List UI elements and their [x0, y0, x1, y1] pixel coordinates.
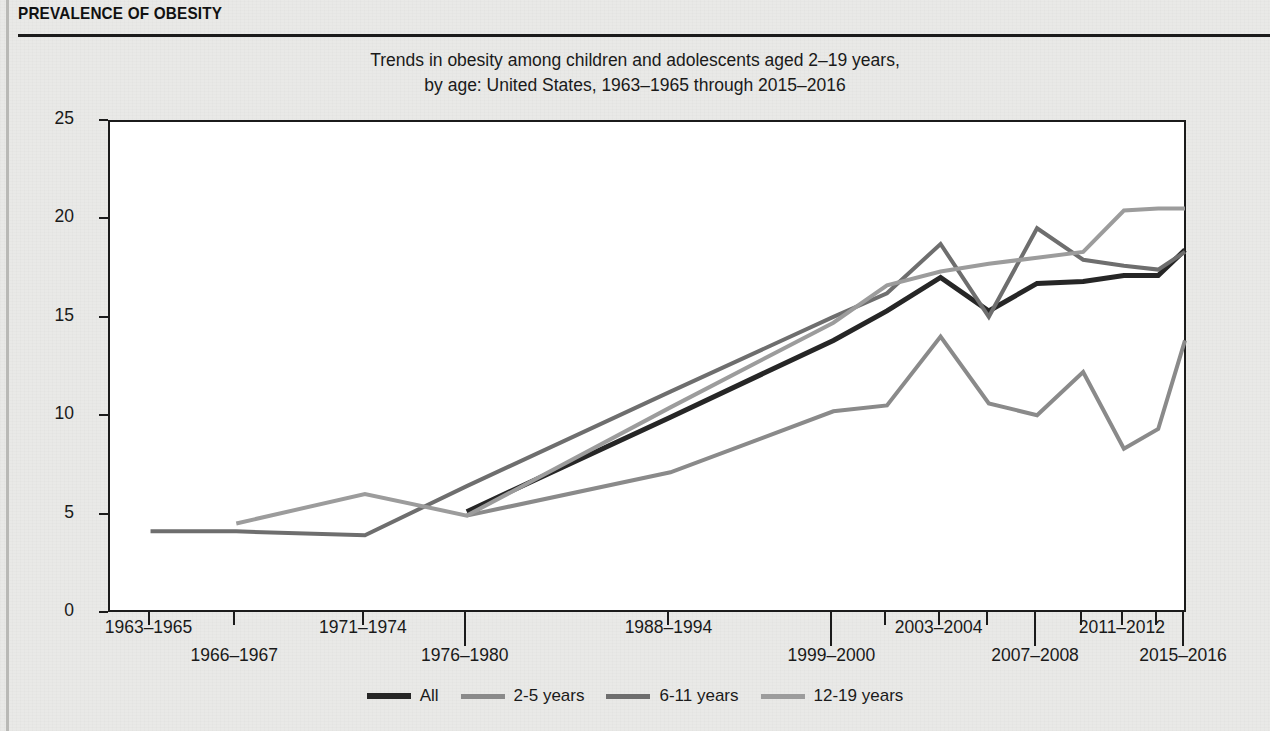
- y-tick-mark: [99, 513, 108, 515]
- series-line: [467, 250, 1185, 512]
- y-tick-label: 5: [14, 505, 74, 519]
- x-tick-label: 1963–1965: [105, 617, 193, 638]
- y-tick-label: 25: [14, 111, 74, 125]
- chart-lines: [110, 122, 1188, 614]
- left-margin-rule: [6, 0, 9, 731]
- x-tick-label: 2003–2004: [895, 617, 983, 638]
- x-tick-label: 2007–2008: [991, 645, 1079, 666]
- legend-item[interactable]: 12-19 years: [761, 686, 904, 706]
- y-tick-mark: [99, 217, 108, 219]
- x-tick-mark: [1182, 612, 1184, 646]
- chart-title-line-1: Trends in obesity among children and ado…: [0, 48, 1270, 73]
- chart-title: Trends in obesity among children and ado…: [0, 48, 1270, 98]
- x-tick-label: 1976–1980: [421, 645, 509, 666]
- chart-legend: All2-5 years6-11 years12-19 years: [0, 686, 1270, 706]
- x-tick-label: 1988–1994: [625, 617, 713, 638]
- legend-swatch-icon: [367, 693, 411, 699]
- x-tick-mark: [1034, 612, 1036, 646]
- y-tick-label: 20: [14, 209, 74, 223]
- legend-swatch-icon: [606, 694, 650, 699]
- series-line: [151, 228, 1185, 535]
- x-tick-label: 1971–1974: [319, 617, 407, 638]
- legend-label: All: [420, 686, 439, 706]
- y-tick-label: 15: [14, 308, 74, 322]
- legend-item[interactable]: 6-11 years: [606, 686, 738, 706]
- series-line: [236, 209, 1185, 524]
- page-title: PREVALENCE OF OBESITY: [18, 4, 1134, 24]
- legend-item[interactable]: 2-5 years: [461, 686, 585, 706]
- plot-area: [108, 120, 1186, 612]
- x-tick-label: 2015–2016: [1139, 645, 1227, 666]
- header-divider: [18, 34, 1270, 37]
- legend-item[interactable]: All: [367, 686, 439, 706]
- y-tick-mark: [99, 414, 108, 416]
- y-tick-label: 10: [14, 406, 74, 420]
- legend-label: 12-19 years: [814, 686, 904, 706]
- legend-swatch-icon: [461, 694, 505, 699]
- section-header: PREVALENCE OF OBESITY: [18, 4, 1258, 34]
- legend-label: 6-11 years: [659, 686, 738, 706]
- x-tick-label: 2011–2012: [1079, 617, 1165, 638]
- chart-title-line-2: by age: United States, 1963–1965 through…: [0, 73, 1270, 98]
- y-tick-label: 0: [14, 603, 74, 617]
- y-tick-mark: [99, 119, 108, 121]
- series-line: [467, 337, 1185, 516]
- x-tick-mark: [464, 612, 466, 646]
- y-tick-mark: [99, 316, 108, 318]
- legend-label: 2-5 years: [514, 686, 585, 706]
- x-tick-label: 1999–2000: [788, 645, 876, 666]
- x-tick-label: 1966–1967: [190, 645, 278, 666]
- x-tick-mark: [830, 612, 832, 646]
- y-tick-mark: [99, 611, 108, 613]
- legend-swatch-icon: [761, 694, 805, 699]
